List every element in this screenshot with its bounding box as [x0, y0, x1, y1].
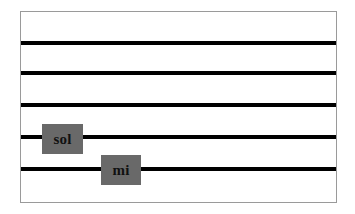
note-label-sol[interactable]: sol	[42, 124, 83, 154]
staff-line-3	[21, 103, 336, 107]
staff-line-2	[21, 71, 336, 75]
staff-line-1	[21, 41, 336, 45]
staff-frame: sol mi	[20, 11, 337, 203]
music-staff-figure: sol mi	[0, 0, 355, 214]
staff-line-group	[21, 12, 336, 202]
note-label-mi-text: mi	[112, 163, 129, 178]
note-label-mi[interactable]: mi	[101, 155, 141, 185]
note-label-sol-text: sol	[53, 132, 71, 147]
staff-line-5	[21, 167, 336, 171]
